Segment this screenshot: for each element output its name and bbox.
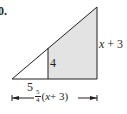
arrow-left-icon <box>12 96 19 100</box>
fraction-denominator: 4 <box>36 97 40 104</box>
plus-three: + 3 <box>104 37 123 51</box>
label-outer-base: 5 4 (x + 3) <box>35 89 68 104</box>
arrow-right-icon <box>90 96 97 100</box>
label-inner-height: 4 <box>50 57 56 69</box>
label-outer-height: x + 3 <box>99 38 123 50</box>
fraction: 5 4 <box>35 89 41 104</box>
plus-three-base: + 3) <box>50 91 68 102</box>
label-inner-base: 5 <box>27 81 33 93</box>
